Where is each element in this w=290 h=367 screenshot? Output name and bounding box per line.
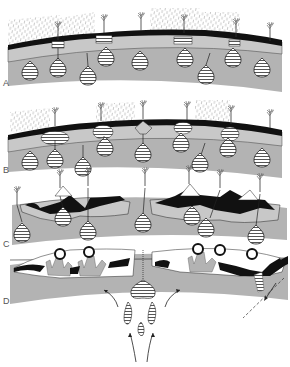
volcano-plume-icon (257, 173, 264, 192)
sill (52, 41, 64, 48)
white-cone (55, 186, 72, 196)
flow-arrow-icon (130, 333, 136, 362)
panel-label-d: D (3, 297, 10, 306)
volcano-plume-icon (101, 14, 108, 33)
magma-blob (138, 322, 144, 336)
panel-label-b: B (3, 166, 9, 175)
panel-label-a: A (3, 79, 9, 88)
sill (229, 40, 240, 46)
volcano-plume-icon (140, 100, 147, 119)
volcano-plume-icon (217, 169, 224, 188)
intrusion (93, 125, 113, 139)
panel-c (12, 165, 287, 245)
panel-label-c: C (3, 240, 10, 249)
volcano-plume-icon (184, 101, 191, 120)
magma-blob (124, 302, 132, 324)
swirl-marker (215, 245, 225, 255)
intrusion (174, 122, 192, 134)
swirl-marker (193, 244, 203, 254)
volcano-plume-icon (142, 167, 149, 186)
panel-a (8, 8, 282, 92)
panel-b (8, 100, 282, 178)
volcano-plume-icon (52, 107, 59, 126)
white-cone (238, 190, 258, 200)
volcano-plume-icon (267, 109, 274, 128)
diagram-canvas (0, 0, 290, 367)
intrusion (221, 127, 239, 141)
volcano-plume-icon (14, 186, 21, 205)
panel-d (10, 244, 288, 362)
magma-blob (148, 302, 156, 324)
crustal-evolution-diagram: A B C D (0, 0, 290, 367)
sill (96, 35, 112, 43)
swirl-marker (84, 247, 94, 257)
swirl-marker (55, 249, 65, 259)
white-cone (180, 184, 200, 196)
volcano-plume-icon (57, 169, 64, 188)
sill (174, 37, 192, 44)
flow-arrow-icon (165, 290, 180, 307)
volcano-plume-icon (138, 12, 145, 31)
swirl-marker (247, 249, 257, 259)
flow-arrow-icon (147, 333, 153, 362)
